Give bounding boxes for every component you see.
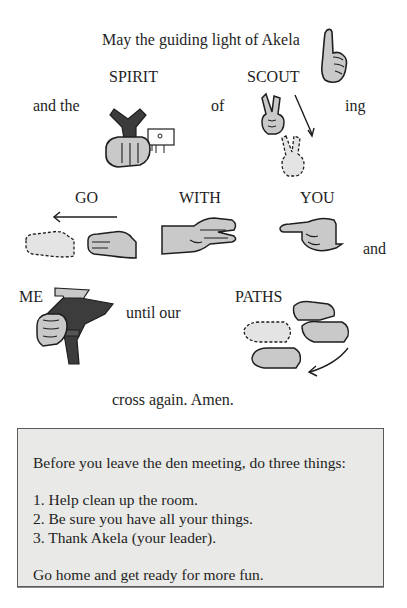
me-sign-hand-icon — [33, 284, 119, 366]
spirit-sign-hand-icon — [100, 105, 180, 171]
reminder-item-3: 3. Thank Akela (your leader). — [33, 529, 216, 547]
reminder-item-1: 1. Help clean up the room. — [33, 491, 198, 509]
go-sign-hands-icon — [22, 210, 142, 262]
word-of: of — [211, 97, 224, 115]
closing-line: cross again. Amen. — [112, 391, 234, 409]
reminder-closing: Go home and get ready for more fun. — [33, 566, 264, 584]
raised-finger-hand-icon — [317, 27, 353, 85]
word-until-our: until our — [126, 304, 181, 322]
paths-sign-hands-icon — [240, 300, 360, 380]
with-sign-hands-icon — [160, 210, 240, 258]
word-and: and — [363, 240, 386, 258]
prayer-line-1: May the guiding light of Akela — [102, 31, 300, 49]
reminder-item-2: 2. Be sure you have all your things. — [33, 510, 253, 528]
label-you: YOU — [300, 189, 335, 207]
word-ing: ing — [345, 97, 365, 115]
scout-sign-hands-icon — [260, 92, 320, 178]
reminder-box: Before you leave the den meeting, do thr… — [17, 428, 384, 587]
label-scout: SCOUT — [247, 68, 299, 86]
label-with: WITH — [179, 189, 221, 207]
you-sign-hand-icon — [278, 210, 344, 258]
word-and-the: and the — [33, 97, 80, 115]
label-spirit: SPIRIT — [109, 68, 158, 86]
reminder-intro: Before you leave the den meeting, do thr… — [33, 454, 346, 472]
label-go: GO — [75, 189, 98, 207]
